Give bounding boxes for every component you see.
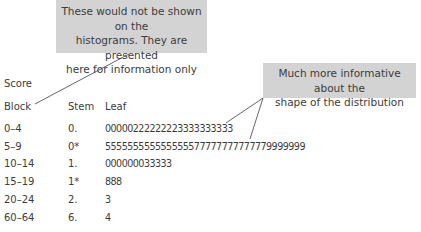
block-cell: 10–14 — [4, 158, 34, 169]
callout-more-informative: Much more informative about the shape of… — [263, 63, 416, 98]
table-row: 5–9 0* 555555555555555577777777777779999… — [0, 141, 421, 157]
block-cell: 0–4 — [4, 123, 22, 134]
stem-cell: 1. — [68, 158, 78, 169]
stem-cell: 6. — [68, 212, 78, 223]
table-row: 20–24 2. 3 — [0, 194, 421, 210]
stem-cell: 2. — [68, 194, 78, 205]
block-cell: 5–9 — [4, 141, 22, 152]
leaf-cell: 4 — [105, 212, 111, 223]
table-row: 60–64 6. 4 — [0, 212, 421, 228]
block-cell: 60–64 — [4, 212, 34, 223]
callout-not-shown-on-histograms: These would not be shown on the histogra… — [56, 0, 207, 53]
leaf-cell: 000000033333 — [105, 158, 172, 169]
callout-line: These would not be shown on the — [56, 4, 207, 33]
block-cell: 20–24 — [4, 194, 34, 205]
leaf-cell: 888 — [105, 176, 122, 187]
table-row: 15–19 1* 888 — [0, 176, 421, 192]
callout-line: shape of the distribution — [263, 95, 416, 110]
score-label: Score — [4, 78, 32, 89]
stem-cell: 1* — [68, 176, 79, 187]
stem-cell: 0. — [68, 123, 78, 134]
block-header: Block — [4, 101, 31, 112]
stem-cell: 0* — [68, 141, 79, 152]
stem-header: Stem — [68, 101, 94, 112]
callout-line: here for information only — [56, 62, 207, 77]
leaf-header: Leaf — [105, 101, 126, 112]
callout-line: Much more informative about the — [263, 66, 416, 95]
connector-right-a — [226, 98, 263, 123]
block-cell: 15–19 — [4, 176, 34, 187]
table-row: 0–4 0. 00000222222223333333333 — [0, 123, 421, 139]
leaf-cell: 555555555555555577777777777779999999 — [105, 141, 305, 152]
leaf-cell: 00000222222223333333333 — [105, 123, 233, 134]
leaf-cell: 3 — [105, 194, 111, 205]
table-row: 10–14 1. 000000033333 — [0, 158, 421, 174]
callout-line: histograms. They are presented — [56, 33, 207, 62]
